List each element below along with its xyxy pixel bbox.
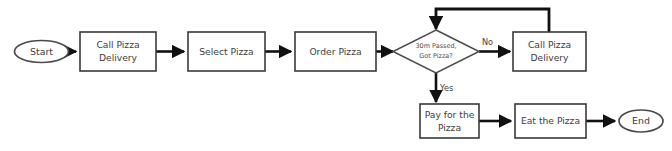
pay-for-the-pizza-label-line2: Pizza bbox=[438, 122, 461, 133]
end-label: End bbox=[632, 115, 650, 126]
node-call-pizza-delivery-2[interactable]: Call Pizza Delivery bbox=[513, 32, 586, 71]
call-pizza-delivery-1-label-line1: Call Pizza bbox=[96, 39, 139, 50]
node-eat-the-pizza[interactable]: Eat the Pizza bbox=[515, 104, 586, 138]
decision-label-line1: 30m Passed, bbox=[415, 42, 456, 50]
edge-call2-loop-back-to-decision bbox=[436, 9, 549, 32]
call-pizza-delivery-1-label-line2: Delivery bbox=[99, 52, 138, 63]
node-decision[interactable]: 30m Passed, Got Pizza? bbox=[393, 30, 479, 73]
decision-label-line2: Got Pizza? bbox=[419, 52, 452, 60]
edge-label-yes: Yes bbox=[439, 83, 453, 93]
node-start[interactable]: Start bbox=[15, 41, 69, 63]
node-order-pizza[interactable]: Order Pizza bbox=[295, 32, 376, 71]
select-pizza-label: Select Pizza bbox=[199, 46, 253, 57]
flowchart-svg: Start Call Pizza Delivery Select Pizza O… bbox=[0, 0, 672, 151]
node-select-pizza[interactable]: Select Pizza bbox=[188, 32, 265, 71]
call-pizza-delivery-2-label-line2: Delivery bbox=[530, 52, 569, 63]
eat-the-pizza-label: Eat the Pizza bbox=[521, 115, 580, 126]
order-pizza-label: Order Pizza bbox=[309, 46, 361, 57]
pay-for-the-pizza-label-line1: Pay for the bbox=[425, 109, 475, 120]
node-call-pizza-delivery-1[interactable]: Call Pizza Delivery bbox=[80, 32, 156, 71]
edge-label-no: No bbox=[482, 37, 493, 47]
start-label: Start bbox=[30, 46, 53, 57]
flowchart-canvas: Start Call Pizza Delivery Select Pizza O… bbox=[0, 0, 672, 151]
node-end[interactable]: End bbox=[619, 110, 663, 132]
node-pay-for-the-pizza[interactable]: Pay for the Pizza bbox=[420, 104, 479, 138]
call-pizza-delivery-2-label-line1: Call Pizza bbox=[528, 39, 571, 50]
